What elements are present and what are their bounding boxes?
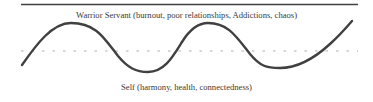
oscillating-wave-curve [22, 21, 352, 72]
self-label: Self (harmony, health, connectedness) [0, 83, 373, 92]
warrior-servant-label: Warrior Servant (burnout, poor relations… [0, 11, 373, 20]
wave-diagram: Warrior Servant (burnout, poor relations… [0, 0, 373, 102]
